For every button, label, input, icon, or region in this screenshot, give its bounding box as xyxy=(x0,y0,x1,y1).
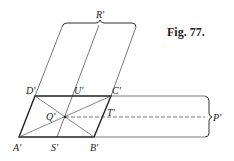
label-S: S' xyxy=(51,142,59,153)
label-R: R' xyxy=(95,9,105,20)
label-Q: Q' xyxy=(46,111,56,122)
right-strip xyxy=(65,96,205,137)
center-point-Q xyxy=(64,116,66,118)
right-brace xyxy=(205,96,212,137)
label-A: A' xyxy=(12,142,22,153)
label-D: D' xyxy=(25,85,36,96)
label-P: P' xyxy=(212,112,222,123)
figure-caption: Fig. 77. xyxy=(167,25,205,39)
label-U: U' xyxy=(74,85,84,96)
label-B: B' xyxy=(90,142,99,153)
label-T: T' xyxy=(107,107,116,118)
label-C: C' xyxy=(112,85,122,96)
figure-77-diagram: A' B' C' D' Q' R' S' T' U' P' Fig. 77. xyxy=(0,0,234,161)
